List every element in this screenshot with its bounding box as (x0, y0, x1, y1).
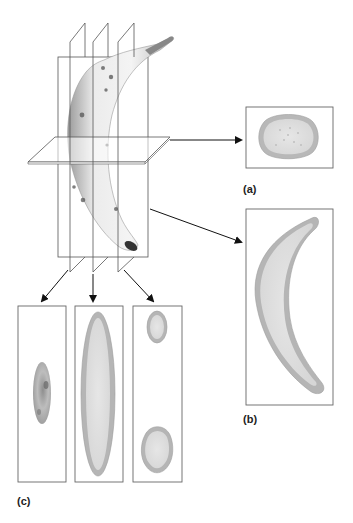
arrow-to-c1 (42, 270, 68, 301)
banana-sections-diagram (0, 0, 353, 523)
panel-c1-section (33, 362, 51, 424)
panel-c3-top-flesh (150, 315, 164, 339)
transverse-plane-edge (28, 162, 145, 164)
arrow-to-b (150, 209, 241, 242)
banana-with-planes (28, 23, 174, 272)
panel-a-flesh (264, 119, 314, 154)
arrow-to-c3 (124, 270, 153, 301)
transverse-plane (28, 137, 170, 162)
label-b: (b) (243, 413, 257, 425)
panel-c2-flesh (86, 318, 110, 470)
panel-b (246, 209, 333, 405)
panel-c (18, 306, 182, 482)
panel-a (246, 107, 333, 168)
label-c: (c) (17, 495, 30, 507)
label-a: (a) (243, 183, 256, 195)
